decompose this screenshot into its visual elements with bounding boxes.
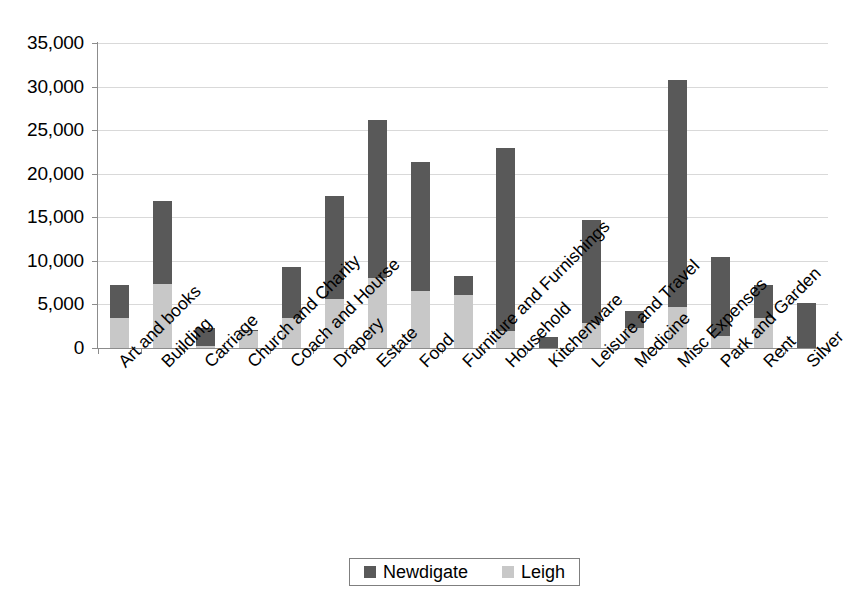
y-axis-tick-mark (92, 217, 97, 218)
bar-segment-newdigate[interactable] (454, 276, 473, 295)
y-axis-tick-mark (92, 261, 97, 262)
bar-group[interactable] (668, 43, 687, 348)
legend-label: Newdigate (383, 563, 468, 581)
x-axis-category-label: Rent (760, 358, 773, 371)
legend-item[interactable]: Newdigate (364, 563, 468, 581)
bar-stack (411, 162, 430, 348)
y-axis-tick-mark (92, 174, 97, 175)
y-axis-tick-mark (92, 87, 97, 88)
y-axis-tick-label: 25,000 (0, 120, 84, 139)
bar-stack (368, 120, 387, 348)
x-axis-category-label: Church and Charity (244, 358, 257, 371)
x-axis-category-label: Furniture and Furnishings (459, 358, 472, 371)
y-axis-tick-label: 35,000 (0, 33, 84, 52)
x-axis-tick-mark (98, 348, 99, 354)
x-axis-category-label: Food (416, 358, 429, 371)
bar-group[interactable] (196, 43, 215, 348)
y-axis-tick-mark (92, 348, 97, 349)
y-axis-tick-label: 10,000 (0, 251, 84, 270)
x-axis-category-label: Building (158, 358, 171, 371)
bar-group[interactable] (797, 43, 816, 348)
y-axis-tick-label: 20,000 (0, 164, 84, 183)
x-axis-category-label: Park and Garden (717, 358, 730, 371)
y-axis-tick-label: 30,000 (0, 77, 84, 96)
bar-segment-newdigate[interactable] (153, 201, 172, 285)
bar-stack (110, 285, 129, 348)
legend-item[interactable]: Leigh (502, 563, 565, 581)
legend-swatch-icon (364, 566, 376, 578)
bars-layer (98, 43, 828, 348)
x-axis-category-label: Drapery (330, 358, 343, 371)
bar-group[interactable] (454, 43, 473, 348)
bar-group[interactable] (368, 43, 387, 348)
bar-segment-newdigate[interactable] (368, 120, 387, 279)
x-axis-category-label: Leisure and Travel (588, 358, 601, 371)
y-axis-tick-mark (92, 130, 97, 131)
bar-stack (668, 80, 687, 348)
bar-group[interactable] (110, 43, 129, 348)
bar-segment-leigh[interactable] (110, 318, 129, 349)
x-axis-category-label: Kitchenware (545, 358, 558, 371)
y-axis-labels: 05,00010,00015,00020,00025,00030,00035,0… (0, 0, 86, 607)
bar-group[interactable] (411, 43, 430, 348)
bar-segment-newdigate[interactable] (797, 303, 816, 348)
legend-label: Leigh (521, 563, 565, 581)
x-axis-category-label: Silver (803, 358, 816, 371)
x-axis-category-label: Art and books (115, 358, 128, 371)
x-axis-category-label: Carriage (201, 358, 214, 371)
x-axis-category-label: Household (502, 358, 515, 371)
y-axis-tick-mark (92, 304, 97, 305)
legend-swatch-icon (502, 566, 514, 578)
y-axis-tick-label: 15,000 (0, 207, 84, 226)
stacked-bar-chart: 05,00010,00015,00020,00025,00030,00035,0… (0, 0, 848, 607)
y-axis-tick-label: 5,000 (0, 294, 84, 313)
x-axis-category-label: Medicine (631, 358, 644, 371)
x-axis-category-label: Coach and Hourse (287, 358, 300, 371)
bar-stack (797, 303, 816, 348)
bar-stack (454, 276, 473, 348)
x-axis-category-label: Misc Expenses (674, 358, 687, 371)
chart-legend: NewdigateLeigh (349, 558, 580, 586)
y-axis-tick-mark (92, 43, 97, 44)
bar-segment-leigh[interactable] (454, 295, 473, 348)
y-axis-tick-label: 0 (0, 338, 84, 357)
bar-segment-newdigate[interactable] (411, 162, 430, 290)
bar-segment-newdigate[interactable] (110, 285, 129, 317)
bar-group[interactable] (239, 43, 258, 348)
x-axis-category-label: Estate (373, 358, 386, 371)
